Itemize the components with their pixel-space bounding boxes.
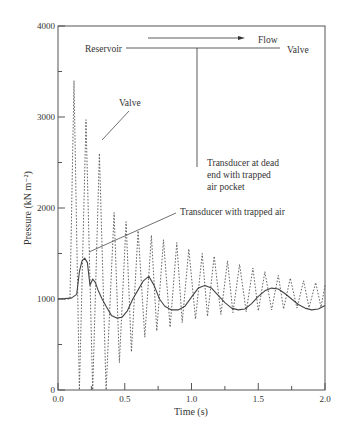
valve-annotation: Valve [119, 98, 141, 108]
series-trapped-air-transducer [58, 258, 325, 318]
flow-arrow-icon [238, 36, 245, 40]
reservoir-label: Reservoir [85, 44, 123, 54]
x-tick-label: 1.5 [253, 394, 265, 404]
x-tick-label: 2.0 [319, 394, 331, 404]
annotations: Valve Transducer at dead end with trappe… [89, 98, 286, 252]
y-axis-title: Pressure (kN m⁻²) [22, 171, 34, 245]
dead-end-pressure-line [58, 81, 325, 390]
dead-end-annotation-line2: end with trapped [207, 170, 271, 180]
x-tick-label: 1.0 [186, 394, 198, 404]
x-axis-title: Time (s) [174, 406, 208, 418]
y-tick-label: 3000 [37, 112, 56, 122]
series-dead-end-transducer [58, 81, 325, 390]
trapped-air-annotation: Transducer with trapped air [180, 207, 286, 217]
dead-end-annotation-line3: air pocket [207, 182, 245, 192]
y-tick-label: 4000 [37, 21, 56, 31]
y-tick-label: 0 [51, 385, 56, 395]
valve-pointer [102, 111, 129, 140]
pressure-time-chart: 0.00.51.01.52.001000200030004000 Flow Re… [0, 0, 345, 439]
trapped-air-pressure-line [58, 258, 325, 318]
valve-pipe-label: Valve [287, 45, 309, 55]
x-tick-label: 0.5 [119, 394, 131, 404]
dead-end-annotation-line1: Transducer at dead [207, 158, 279, 168]
flow-label: Flow [258, 35, 278, 45]
x-tick-label: 0.0 [52, 394, 64, 404]
y-tick-label: 2000 [37, 203, 56, 213]
y-tick-label: 1000 [37, 294, 56, 304]
